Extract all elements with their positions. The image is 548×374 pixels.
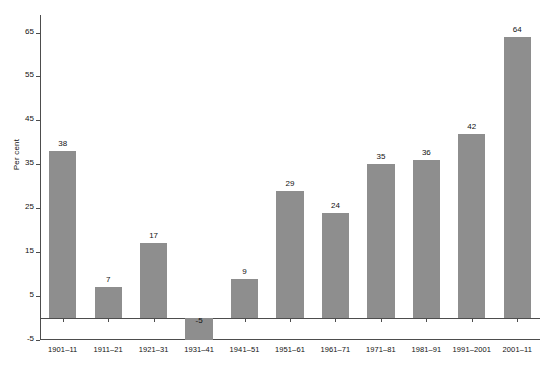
y-tick-mark [36, 120, 40, 121]
x-axis-line [40, 339, 540, 340]
bar [367, 164, 394, 318]
y-tick-mark [36, 76, 40, 77]
y-tick: 35 [14, 164, 40, 165]
x-tick-mark [472, 318, 473, 322]
bar-value-label: -5 [176, 316, 221, 325]
bar [231, 279, 258, 319]
bar-value-label: 17 [131, 231, 176, 240]
bar [276, 191, 303, 318]
bar-value-label: 29 [267, 179, 312, 188]
y-tick: 25 [14, 208, 40, 209]
x-tick-label: 2001–11 [489, 345, 546, 354]
bar [504, 37, 531, 318]
y-tick-label: 5 [30, 290, 34, 299]
bar-value-label: 38 [40, 139, 85, 148]
plot-area: -55152535455565 1901–111911–211921–31193… [40, 15, 540, 340]
y-tick-label: 25 [25, 202, 34, 211]
x-tick-mark [381, 318, 382, 322]
x-tick-mark [108, 318, 109, 322]
y-tick-label: 15 [25, 246, 34, 255]
bar-value-label: 24 [313, 201, 358, 210]
x-tick-mark [426, 318, 427, 322]
y-axis-title: Per cent [12, 115, 21, 195]
y-tick: 15 [14, 252, 40, 253]
y-tick-mark [36, 296, 40, 297]
bar-value-label: 64 [495, 25, 540, 34]
y-tick-label: 35 [25, 158, 34, 167]
y-tick-mark [36, 340, 40, 341]
x-tick-mark [154, 318, 155, 322]
x-tick-mark [335, 318, 336, 322]
y-tick-mark [36, 208, 40, 209]
bar-value-label: 7 [85, 275, 130, 284]
bar-chart: Per cent -55152535455565 1901–111911–211… [0, 0, 548, 374]
bar-value-label: 36 [404, 148, 449, 157]
y-tick-label: 55 [25, 70, 34, 79]
y-tick: 45 [14, 120, 40, 121]
bar [322, 213, 349, 318]
bar [95, 287, 122, 318]
y-tick-mark [36, 164, 40, 165]
y-tick-label: 65 [25, 27, 34, 36]
x-tick-mark [245, 318, 246, 322]
bar-value-label: 9 [222, 267, 267, 276]
bar [458, 134, 485, 318]
x-tick-mark [290, 318, 291, 322]
y-tick-mark [36, 252, 40, 253]
y-tick: -5 [14, 340, 40, 341]
y-tick: 5 [14, 296, 40, 297]
bar [49, 151, 76, 318]
y-tick-label: -5 [27, 334, 34, 343]
y-tick-mark [36, 33, 40, 34]
y-tick: 55 [14, 76, 40, 77]
bar-value-label: 42 [449, 122, 494, 131]
x-tick-mark [63, 318, 64, 322]
y-tick-label: 45 [25, 114, 34, 123]
bar [413, 160, 440, 318]
y-tick: 65 [14, 33, 40, 34]
bar-value-label: 35 [358, 152, 403, 161]
y-axis-line [40, 15, 41, 340]
bar [140, 243, 167, 318]
x-tick-mark [517, 318, 518, 322]
